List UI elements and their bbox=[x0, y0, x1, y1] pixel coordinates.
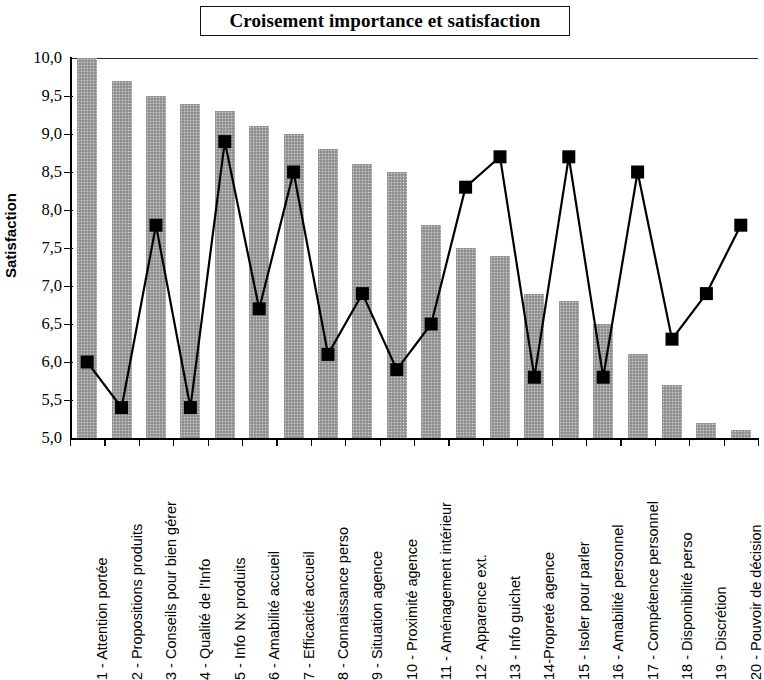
chart-title-box: Croisement importance et satisfaction bbox=[200, 6, 570, 36]
bar bbox=[628, 354, 648, 438]
bar bbox=[456, 248, 476, 438]
bar bbox=[352, 164, 372, 438]
y-axis-tick-label: 7,0 bbox=[20, 278, 62, 295]
bar bbox=[77, 58, 97, 438]
x-axis-category-label: 5 - Info Nx produits bbox=[232, 450, 248, 680]
bar bbox=[490, 256, 510, 438]
x-axis-category-label: 18 - Disponibilité perso bbox=[679, 450, 695, 680]
x-axis-category-label: 15 - Isoler pour parler bbox=[576, 450, 592, 680]
bar bbox=[662, 385, 682, 438]
y-axis-tick-label: 5,0 bbox=[20, 430, 62, 447]
y-axis-tick-label: 8,5 bbox=[20, 164, 62, 181]
x-axis-category-label: 9 - Situation agence bbox=[369, 450, 385, 680]
data-point-marker bbox=[666, 333, 679, 346]
data-point-marker bbox=[700, 287, 713, 300]
bar bbox=[421, 225, 441, 438]
bar bbox=[112, 81, 132, 438]
bar bbox=[318, 149, 338, 438]
y-axis-tick-labels: 10,09,59,08,58,07,57,06,56,05,55,0 bbox=[14, 0, 62, 678]
x-axis-tick bbox=[242, 438, 243, 446]
y-axis-tick-label: 10,0 bbox=[20, 50, 62, 67]
x-axis-tick bbox=[70, 438, 71, 446]
y-axis-tick-label: 6,0 bbox=[20, 354, 62, 371]
x-axis-category-label: 1 - Attention portée bbox=[94, 450, 110, 680]
y-axis-tick bbox=[64, 362, 73, 363]
x-axis-tick bbox=[208, 438, 209, 446]
page-title: Croisement importance et satisfaction bbox=[230, 10, 541, 32]
y-axis-tick bbox=[64, 286, 73, 287]
x-axis-category-label: 6 - Amabilité accueil bbox=[266, 450, 282, 680]
x-axis-category-label: 19 - Discrétion bbox=[713, 450, 729, 680]
bar bbox=[696, 423, 716, 438]
data-point-marker bbox=[459, 181, 472, 194]
data-point-marker bbox=[734, 219, 747, 232]
y-axis-tick-label: 9,5 bbox=[20, 88, 62, 105]
x-axis-category-label: 4 - Qualité de l'Info bbox=[197, 450, 213, 680]
y-axis-tick-label: 9,0 bbox=[20, 126, 62, 143]
x-axis-tick bbox=[620, 438, 621, 446]
y-axis-tick-label: 7,5 bbox=[20, 240, 62, 257]
bar bbox=[559, 301, 579, 438]
y-axis-tick-label: 6,5 bbox=[20, 316, 62, 333]
bar bbox=[146, 96, 166, 438]
x-axis-tick bbox=[483, 438, 484, 446]
y-axis-tick bbox=[64, 96, 73, 97]
bar bbox=[387, 172, 407, 438]
y-axis-tick bbox=[64, 134, 73, 135]
x-axis-category-label: 13 - Info guichet bbox=[507, 450, 523, 680]
bar bbox=[524, 294, 544, 438]
bar bbox=[180, 104, 200, 438]
y-axis-tick bbox=[64, 210, 73, 211]
x-axis-category-label: 16 - Amabilité personnel bbox=[610, 450, 626, 680]
x-axis-tick bbox=[276, 438, 277, 446]
x-axis-category-label: 10 - Proximité agence bbox=[404, 450, 420, 680]
x-axis-tick bbox=[448, 438, 449, 446]
x-axis-tick bbox=[758, 438, 759, 446]
x-axis-tick bbox=[104, 438, 105, 446]
x-axis-category-label: 20 - Pouvoir de décision bbox=[748, 450, 764, 680]
bar bbox=[215, 111, 235, 438]
bar bbox=[249, 126, 269, 438]
x-axis-category-label: 8 - Connaissance perso bbox=[335, 450, 351, 680]
x-axis-category-label: 14-Propreté agence bbox=[541, 450, 557, 680]
bar bbox=[731, 430, 751, 438]
x-axis-category-label: 11 - Aménagement intérieur bbox=[438, 450, 454, 680]
data-point-marker bbox=[494, 150, 507, 163]
x-axis-tick bbox=[655, 438, 656, 446]
x-axis-tick bbox=[380, 438, 381, 446]
x-axis-category-label: 7 - Efficacité accueil bbox=[301, 450, 317, 680]
x-axis-tick bbox=[173, 438, 174, 446]
y-axis-tick bbox=[64, 324, 73, 325]
x-axis-tick bbox=[345, 438, 346, 446]
x-axis-tick bbox=[517, 438, 518, 446]
x-axis-tick bbox=[552, 438, 553, 446]
x-axis-tick bbox=[311, 438, 312, 446]
data-point-marker bbox=[631, 166, 644, 179]
bar bbox=[593, 324, 613, 438]
x-axis-tick bbox=[689, 438, 690, 446]
x-axis-category-label: 3 - Conseils pour bien gérer bbox=[163, 450, 179, 680]
x-axis-category-label: 2 - Propositions produits bbox=[129, 450, 145, 680]
bar bbox=[284, 134, 304, 438]
y-axis-tick bbox=[64, 400, 73, 401]
x-axis-tick bbox=[139, 438, 140, 446]
x-axis-category-label: 12 - Apparence ext. bbox=[473, 450, 489, 680]
x-axis-tick bbox=[724, 438, 725, 446]
y-axis-tick bbox=[64, 248, 73, 249]
y-axis-tick-label: 5,5 bbox=[20, 392, 62, 409]
y-axis-tick-label: 8,0 bbox=[20, 202, 62, 219]
plot-top-border bbox=[70, 58, 758, 59]
x-axis-tick bbox=[414, 438, 415, 446]
x-axis-category-label: 17 - Compétence personnel bbox=[645, 450, 661, 680]
data-point-marker bbox=[562, 150, 575, 163]
y-axis-tick bbox=[64, 172, 73, 173]
x-axis-tick bbox=[586, 438, 587, 446]
